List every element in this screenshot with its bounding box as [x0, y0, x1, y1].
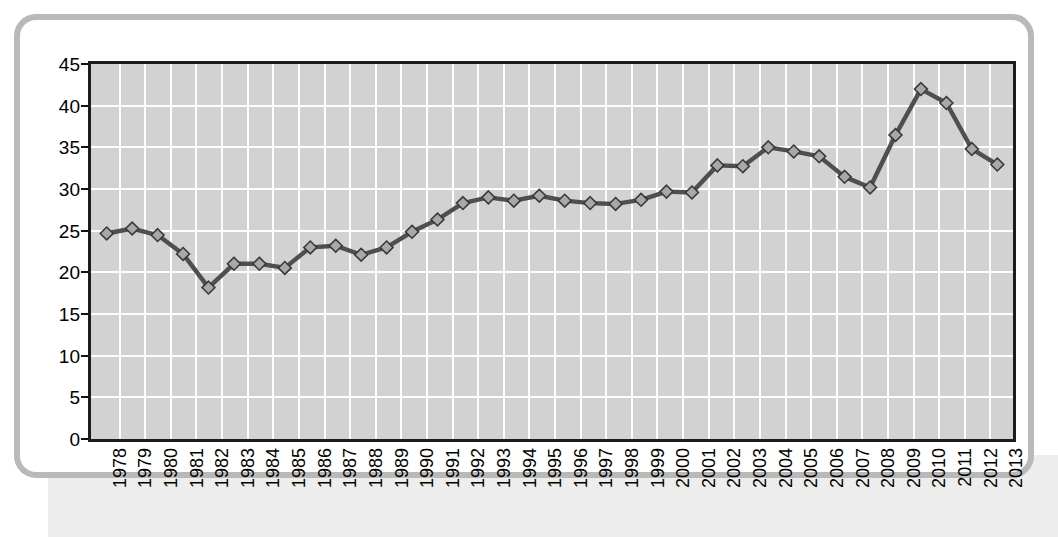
x-axis-tick-label: 2009 — [905, 448, 923, 488]
x-axis-tick-label: 2001 — [700, 448, 718, 488]
x-axis-tick-label: 2005 — [802, 448, 820, 488]
y-axis-tick-labels: 051015202530354045 — [20, 61, 80, 442]
y-axis-tick-marks — [80, 61, 88, 442]
y-axis-tick-mark — [81, 63, 88, 65]
data-point-marker — [329, 239, 342, 252]
data-point-marker — [507, 194, 520, 207]
x-axis-tick-label: 2013 — [1007, 448, 1025, 488]
chart-title — [20, 21, 21, 22]
x-axis-tick-label: 1979 — [136, 448, 154, 488]
x-axis-tick-label: 1992 — [469, 448, 487, 488]
x-axis-tick-label: 2007 — [854, 448, 872, 488]
x-axis-tick-labels: 1978197919801981198219831984198519861987… — [88, 446, 1016, 506]
y-axis-tick-mark — [81, 271, 88, 273]
data-point-marker — [558, 194, 571, 207]
data-point-marker — [533, 189, 546, 202]
y-axis-tick-label: 20 — [22, 263, 80, 282]
y-axis-tick-label: 30 — [22, 180, 80, 199]
x-axis-tick-label: 1980 — [162, 448, 180, 488]
x-axis-tick-label: 1998 — [623, 448, 641, 488]
x-axis-tick-label: 2003 — [751, 448, 769, 488]
x-axis-tick-label: 1996 — [572, 448, 590, 488]
y-axis-tick-label: 40 — [22, 96, 80, 115]
x-axis-tick-label: 1989 — [393, 448, 411, 488]
y-axis-tick-mark — [81, 146, 88, 148]
data-point-marker — [609, 198, 622, 211]
y-axis-tick-label: 35 — [22, 138, 80, 157]
data-point-marker — [635, 193, 648, 206]
x-axis-tick-label: 2008 — [879, 448, 897, 488]
x-axis-tick-label: 1985 — [290, 448, 308, 488]
x-axis-tick-label: 1993 — [495, 448, 513, 488]
data-point-marker — [584, 197, 597, 210]
x-axis-tick-label: 1988 — [367, 448, 385, 488]
x-axis-tick-label: 1987 — [341, 448, 359, 488]
x-axis-tick-label: 1997 — [597, 448, 615, 488]
x-axis-tick-label: 1986 — [316, 448, 334, 488]
x-axis-tick-label: 1991 — [444, 448, 462, 488]
data-point-marker — [100, 227, 113, 240]
plot-area — [88, 61, 1016, 442]
x-axis-tick-label: 1999 — [649, 448, 667, 488]
chart-card: 051015202530354045 197819791980198119821… — [14, 14, 1034, 478]
x-axis-tick-label: 1990 — [418, 448, 436, 488]
y-axis-tick-mark — [81, 188, 88, 190]
x-axis-tick-label: 1984 — [264, 448, 282, 488]
x-axis-tick-label: 2000 — [674, 448, 692, 488]
x-axis-tick-label: 1994 — [521, 448, 539, 488]
data-point-marker — [253, 257, 266, 270]
x-axis-tick-label: 1981 — [188, 448, 206, 488]
x-axis-tick-label: 2006 — [828, 448, 846, 488]
x-axis-tick-label: 2012 — [982, 448, 1000, 488]
y-axis-tick-label: 15 — [22, 305, 80, 324]
data-point-marker — [660, 185, 673, 198]
y-axis-tick-mark — [81, 355, 88, 357]
x-axis-tick-label: 1982 — [213, 448, 231, 488]
x-axis-tick-label: 2010 — [930, 448, 948, 488]
data-point-marker — [355, 248, 368, 261]
y-axis-tick-mark — [81, 396, 88, 398]
x-axis-tick-label: 1983 — [239, 448, 257, 488]
x-axis-tick-label: 2011 — [956, 448, 974, 487]
y-axis-tick-mark — [81, 313, 88, 315]
line-chart-figure: 051015202530354045 197819791980198119821… — [20, 20, 1040, 484]
y-axis-tick-mark — [81, 230, 88, 232]
x-axis-tick-label: 1978 — [111, 448, 129, 488]
data-series-line — [91, 64, 1013, 439]
y-axis-tick-label: 45 — [22, 55, 80, 74]
data-point-marker — [787, 145, 800, 158]
data-point-marker — [126, 222, 139, 235]
x-axis-tick-label: 2002 — [725, 448, 743, 488]
y-axis-tick-label: 10 — [22, 346, 80, 365]
y-axis-tick-label: 25 — [22, 221, 80, 240]
y-axis-tick-mark — [81, 438, 88, 440]
x-axis-tick-label: 2004 — [777, 448, 795, 488]
data-point-marker — [482, 191, 495, 204]
x-axis-tick-label: 1995 — [546, 448, 564, 488]
y-axis-tick-mark — [81, 105, 88, 107]
y-axis-tick-label: 5 — [22, 388, 80, 407]
y-axis-tick-label: 0 — [22, 430, 80, 449]
